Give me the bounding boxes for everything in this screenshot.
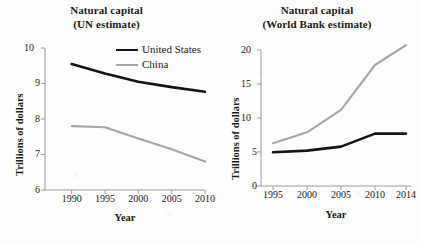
legend-swatch-united-states-icon xyxy=(116,49,138,51)
plot-area-left xyxy=(0,0,213,205)
legend-label-united-states: United States xyxy=(142,43,201,56)
x-tick-left-2005: 2005 xyxy=(155,193,189,204)
legend-item-china: China xyxy=(116,57,201,72)
legend-swatch-china-icon xyxy=(116,64,138,66)
x-axis-label-right: Year xyxy=(261,209,411,220)
chart-panel-world-bank-estimate: Natural capital (World Bank estimate) Tr… xyxy=(213,0,421,243)
x-tick-left-2000: 2000 xyxy=(121,193,155,204)
line-chart-left-svg xyxy=(0,0,213,205)
figure-panels: Natural capital (UN estimate) Trillions … xyxy=(0,0,421,243)
x-tick-right-1995: 1995 xyxy=(256,189,290,200)
legend-item-united-states: United States xyxy=(116,42,201,57)
x-tick-right-2005: 2005 xyxy=(324,189,358,200)
x-tick-right-2010: 2010 xyxy=(358,189,392,200)
chart-panel-un-estimate: Natural capital (UN estimate) Trillions … xyxy=(0,0,213,243)
chart-legend: United States China xyxy=(116,42,201,72)
x-tick-right-2014: 2014 xyxy=(389,189,421,200)
x-tick-right-2000: 2000 xyxy=(290,189,324,200)
x-axis-label-left: Year xyxy=(45,212,205,223)
x-tick-left-1990: 1990 xyxy=(55,193,89,204)
legend-label-china: China xyxy=(142,58,168,71)
series-line-china-left xyxy=(72,126,205,162)
plot-area-right xyxy=(213,0,421,205)
x-tick-left-1995: 1995 xyxy=(88,193,122,204)
series-line-china-right xyxy=(273,45,406,143)
line-chart-right-svg xyxy=(213,0,421,205)
